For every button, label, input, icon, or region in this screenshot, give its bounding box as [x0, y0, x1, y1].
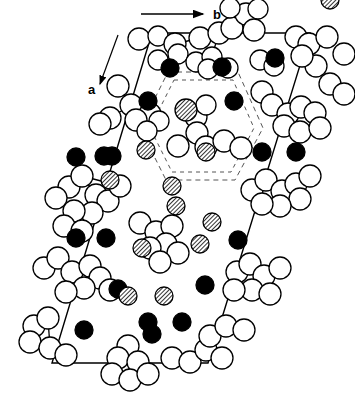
- hatched-atom: [101, 171, 119, 189]
- hatched-atom: [203, 213, 221, 231]
- open-atom: [333, 83, 355, 105]
- open-atom: [248, 0, 268, 19]
- open-atom: [223, 279, 245, 301]
- hatched-atom: [163, 177, 181, 195]
- open-atom: [333, 43, 355, 65]
- filled-atom: [225, 92, 243, 110]
- atom-layer: [19, 0, 355, 391]
- filled-atom: [287, 143, 305, 161]
- open-atom: [89, 113, 111, 135]
- open-atom: [19, 331, 41, 353]
- filled-atom: [67, 229, 85, 247]
- open-atom: [137, 121, 157, 141]
- hatched-atom: [119, 287, 137, 305]
- open-atom: [149, 251, 171, 273]
- crystal-structure-figure: b a: [0, 0, 355, 397]
- open-atom: [37, 307, 59, 329]
- b-axis-label: b: [213, 7, 221, 22]
- filled-atom: [161, 59, 179, 77]
- open-atom: [107, 75, 129, 97]
- open-atom: [259, 283, 281, 305]
- hatched-atom: [133, 239, 151, 257]
- open-atom: [167, 135, 189, 157]
- open-atom: [128, 28, 150, 50]
- open-atom: [220, 0, 240, 18]
- hatched-atom: [175, 99, 197, 121]
- open-atom: [309, 117, 331, 139]
- hatched-atom: [191, 235, 209, 253]
- open-atom: [55, 344, 77, 366]
- filled-atom: [67, 148, 85, 166]
- open-atom: [71, 165, 93, 187]
- open-atom: [211, 347, 233, 369]
- open-atom: [230, 137, 252, 159]
- open-atom: [289, 188, 311, 210]
- filled-atom: [143, 325, 161, 343]
- filled-atom: [75, 321, 93, 339]
- open-atom: [196, 95, 216, 115]
- hatched-atom: [167, 197, 185, 215]
- filled-atom: [266, 49, 284, 67]
- filled-atom: [229, 231, 247, 249]
- open-atom: [233, 319, 255, 341]
- filled-atom: [173, 313, 191, 331]
- a-axis-label: a: [88, 82, 96, 97]
- hatched-atom: [137, 141, 155, 159]
- hatched-atom: [321, 0, 339, 9]
- filled-atom: [253, 143, 271, 161]
- open-atom: [251, 193, 273, 215]
- open-atom: [289, 121, 311, 143]
- open-atom: [243, 19, 265, 41]
- filled-atom: [196, 276, 214, 294]
- open-atom: [299, 165, 321, 187]
- filled-atom: [213, 58, 231, 76]
- hatched-atom: [197, 143, 215, 161]
- filled-atom: [95, 147, 113, 165]
- filled-atom: [97, 229, 115, 247]
- open-atom: [137, 363, 159, 385]
- crystal-structure-canvas: b a: [0, 0, 355, 397]
- open-atom: [291, 45, 313, 67]
- open-atom: [55, 281, 77, 303]
- open-atom: [269, 257, 291, 279]
- hatched-atom: [155, 287, 173, 305]
- open-atom: [316, 26, 338, 48]
- filled-atom: [139, 92, 157, 110]
